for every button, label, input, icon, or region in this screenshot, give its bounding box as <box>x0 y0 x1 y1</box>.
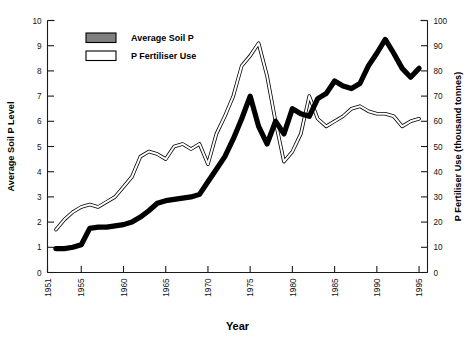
data-series-group <box>56 39 419 248</box>
y2-tick-label: 10 <box>434 243 444 252</box>
x-tick-label: 1975 <box>246 278 255 297</box>
y2-tick-label: 100 <box>434 17 448 26</box>
x-tick-label: 1990 <box>373 278 382 297</box>
y-tick-label: 8 <box>37 67 42 76</box>
x-tick-label: 1960 <box>120 278 129 297</box>
legend-label-p-fertiliser-use: P Fertiliser Use <box>131 51 196 61</box>
x-axis-ticks: 1951195519601965197019751980198519901995 <box>44 266 425 297</box>
y2-tick-label: 40 <box>434 168 444 177</box>
x-tick-label: 1965 <box>162 278 171 297</box>
y-axis-ticks: 012345678910 <box>32 17 54 278</box>
y-tick-label: 10 <box>32 17 42 26</box>
y-tick-label: 7 <box>37 92 42 101</box>
y2-axis-ticks: 0102030405060708090100 <box>421 17 448 278</box>
y2-tick-label: 0 <box>434 269 439 278</box>
y-tick-label: 1 <box>37 243 42 252</box>
y2-tick-label: 70 <box>434 92 444 101</box>
legend-swatch-average-soil-p <box>86 33 116 43</box>
y-tick-label: 6 <box>37 117 42 126</box>
series-line-average-soil-p <box>56 39 419 248</box>
y-tick-label: 2 <box>37 218 42 227</box>
y2-axis-title: P Fertiliser Use (thousand tonnes) <box>453 72 463 221</box>
x-tick-label: 1985 <box>331 278 340 297</box>
y2-tick-label: 90 <box>434 42 444 51</box>
y2-tick-label: 20 <box>434 218 444 227</box>
y2-tick-label: 60 <box>434 117 444 126</box>
y-axis-title: Average Soil P Level <box>6 102 16 192</box>
y2-tick-label: 50 <box>434 143 444 152</box>
x-tick-label: 1995 <box>415 278 424 297</box>
x-tick-label: 1980 <box>289 278 298 297</box>
y-tick-label: 5 <box>37 143 42 152</box>
y-tick-label: 0 <box>37 269 42 278</box>
y2-tick-label: 30 <box>434 193 444 202</box>
legend-swatch-p-fertiliser-use <box>86 51 116 61</box>
chart-legend: Average Soil PP Fertiliser Use <box>86 33 196 61</box>
axis-titles-group: Average Soil P LevelP Fertiliser Use (th… <box>6 72 463 332</box>
x-tick-label: 1970 <box>204 278 213 297</box>
y-tick-label: 3 <box>37 193 42 202</box>
x-tick-label: 1955 <box>77 278 86 297</box>
chart-container: 012345678910 0102030405060708090100 1951… <box>0 0 471 342</box>
y-tick-label: 9 <box>37 42 42 51</box>
legend-label-average-soil-p: Average Soil P <box>131 33 194 43</box>
soil-p-fertiliser-line-chart: 012345678910 0102030405060708090100 1951… <box>0 0 471 342</box>
y-tick-label: 4 <box>37 168 42 177</box>
y2-tick-label: 80 <box>434 67 444 76</box>
x-tick-label: 1951 <box>44 278 53 297</box>
x-axis-title: Year <box>226 320 250 332</box>
